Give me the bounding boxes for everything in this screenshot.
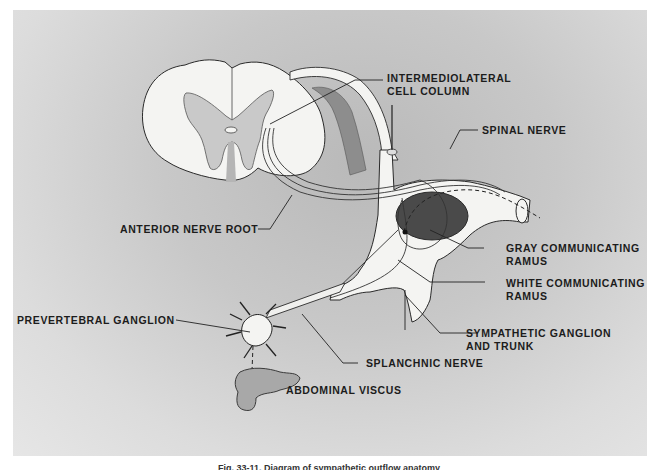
label-line-1: SPINAL NERVE	[482, 124, 566, 137]
label-white-communicating-ramus: WHITE COMMUNICATING RAMUS	[506, 277, 645, 302]
label-splanchnic-nerve: SPLANCHNIC NERVE	[366, 357, 483, 370]
figure-caption: Fig. 33-11. Diagram of sympathetic outfl…	[0, 461, 658, 470]
sympathetic-nervous-system-diagram	[0, 0, 658, 470]
label-line-2: AND TRUNK	[466, 340, 611, 353]
sympathetic-ganglion-shape	[330, 105, 530, 330]
synapse-dot	[403, 230, 408, 235]
label-prevertebral-ganglion: PREVERTEBRAL GANGLION	[17, 314, 175, 327]
label-spinal-nerve: SPINAL NERVE	[482, 124, 566, 137]
label-line-1: ANTERIOR NERVE ROOT	[120, 223, 258, 236]
label-line-1: GRAY COMMUNICATING	[506, 242, 640, 255]
label-sympathetic-ganglion-and-trunk: SYMPATHETIC GANGLION AND TRUNK	[466, 327, 611, 352]
label-line-1: INTERMEDIOLATERAL	[387, 72, 511, 85]
label-line-1: PREVERTEBRAL GANGLION	[17, 314, 175, 327]
label-line-2: CELL COLUMN	[387, 85, 511, 98]
label-line-1: ABDOMINAL VISCUS	[286, 384, 402, 397]
label-line-1: WHITE COMMUNICATING	[506, 277, 645, 290]
label-line-2: RAMUS	[506, 290, 645, 303]
label-line-1: SPLANCHNIC NERVE	[366, 357, 483, 370]
label-line-1: SYMPATHETIC GANGLION	[466, 327, 611, 340]
label-abdominal-viscus: ABDOMINAL VISCUS	[286, 384, 402, 397]
label-intermediolateral-cell-column: INTERMEDIOLATERAL CELL COLUMN	[387, 72, 511, 97]
label-line-2: RAMUS	[506, 255, 640, 268]
label-anterior-nerve-root: ANTERIOR NERVE ROOT	[120, 223, 258, 236]
label-gray-communicating-ramus: GRAY COMMUNICATING RAMUS	[506, 242, 640, 267]
